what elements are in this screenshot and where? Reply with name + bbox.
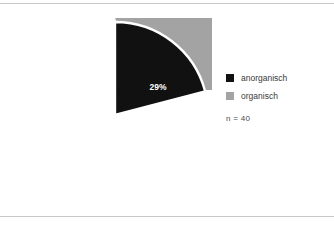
pie-chart-figure: 29% 71% anorganisch organisch n = 40	[0, 0, 334, 227]
legend-item-anorganisch[interactable]: anorganisch	[226, 70, 326, 86]
sample-size-note: n = 40	[226, 114, 326, 123]
legend-label-anorganisch: anorganisch	[241, 73, 287, 83]
chart-legend: anorganisch organisch n = 40	[226, 70, 326, 123]
pie-plot-area: 29% 71%	[18, 18, 212, 212]
top-divider-rule	[0, 3, 334, 4]
legend-item-organisch[interactable]: organisch	[226, 88, 326, 104]
legend-swatch-icon-anorganisch	[226, 74, 234, 82]
legend-swatch-icon-organisch	[226, 92, 234, 100]
slice-label-anorganisch: 29%	[149, 82, 166, 92]
pie-svg: 29% 71%	[18, 18, 212, 212]
legend-label-organisch: organisch	[241, 91, 278, 101]
bottom-divider-rule	[0, 216, 334, 217]
slice-label-organisch: 71%	[56, 138, 73, 148]
